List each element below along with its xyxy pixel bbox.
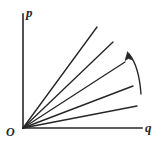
diagram-canvas — [0, 0, 160, 148]
x-axis-label: q — [145, 121, 152, 134]
y-axis-label: p — [26, 6, 33, 19]
ray-2 — [23, 42, 113, 128]
origin-label: O — [6, 126, 15, 138]
rotation-arrow-curve — [129, 54, 141, 94]
ray-1 — [23, 27, 97, 128]
figure-container: p q O — [0, 0, 160, 148]
rays-group — [23, 27, 137, 128]
rotation-arrow-head — [125, 52, 133, 61]
